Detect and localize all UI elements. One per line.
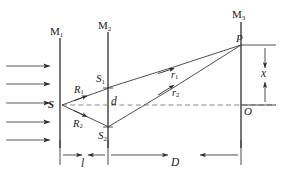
ray-label-R2: R2 — [73, 119, 83, 130]
dimension-label-l-main: l — [81, 157, 84, 169]
point-label-s2-sub: 2 — [104, 135, 107, 142]
screen-label-m2-sub: 2 — [108, 25, 111, 32]
point-label-s-main: S — [48, 98, 54, 110]
dimension-label-x-main: x — [261, 67, 266, 79]
screen-label-m1-sub: 1 — [60, 31, 63, 38]
figure-canvas: M1 M2 M3 S S1 S2 P O R1 R2 r1 r2 d x l D — [0, 0, 287, 173]
ray-diagram-svg — [0, 0, 287, 173]
ray-R2 — [62, 105, 109, 127]
screen-label-m1: M1 — [50, 26, 63, 38]
ray-label-R2-sub: 2 — [79, 122, 82, 129]
screen-label-m3-main: M — [232, 8, 242, 20]
ray-r2 — [108, 45, 241, 127]
point-label-s1-sub: 1 — [102, 78, 105, 85]
dimension-label-l: l — [81, 158, 84, 170]
point-label-p: P — [236, 33, 243, 44]
ray-R1-arrowhead — [74, 97, 85, 101]
ray-R2-arrowhead — [74, 111, 85, 116]
screen-label-m1-main: M — [50, 25, 60, 37]
ray-label-r2-sub: 2 — [176, 91, 179, 98]
dimension-label-d-main: d — [111, 95, 117, 107]
ray-label-r1-sub: 1 — [175, 73, 178, 80]
point-label-o-main: O — [244, 105, 252, 117]
screen-label-m2: M2 — [98, 20, 111, 32]
point-label-o: O — [244, 106, 252, 117]
ray-label-r1: r1 — [171, 70, 178, 81]
dimension-label-x: x — [261, 68, 266, 80]
ray-r2-arrowhead — [158, 86, 172, 95]
ray-label-R1-sub: 1 — [80, 88, 83, 95]
screen-label-m3-sub: 3 — [242, 14, 245, 21]
screen-label-m2-main: M — [98, 19, 108, 31]
incident-beam-arrows — [6, 66, 50, 140]
dimension-label-d: d — [111, 96, 117, 108]
ray-label-R1: R1 — [74, 85, 84, 96]
dimension-label-D: D — [171, 157, 179, 169]
ray-label-r2: r2 — [172, 88, 179, 99]
point-label-s2: S2 — [98, 130, 107, 142]
dimension-label-D-main: D — [171, 156, 179, 168]
ray-R1 — [62, 88, 109, 105]
point-label-s1: S1 — [96, 73, 105, 85]
dimension-x — [241, 45, 276, 105]
point-label-p-main: P — [236, 32, 243, 44]
ray-r1 — [107, 45, 241, 88]
screen-label-m3: M3 — [232, 9, 245, 21]
point-label-s: S — [48, 99, 54, 110]
